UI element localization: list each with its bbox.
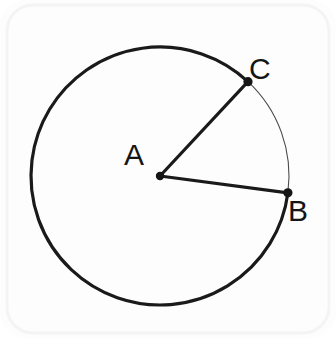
point-label-c: C bbox=[249, 52, 271, 85]
radius-segment-ac bbox=[160, 82, 248, 176]
minor-arc-cb bbox=[248, 82, 289, 193]
figure-frame: A C B bbox=[0, 0, 336, 338]
radius-segment-ab bbox=[160, 176, 288, 193]
circle-diagram: A C B bbox=[0, 0, 336, 338]
point-marker-a bbox=[156, 172, 164, 180]
point-label-a: A bbox=[124, 138, 144, 171]
point-label-b: B bbox=[288, 194, 308, 227]
